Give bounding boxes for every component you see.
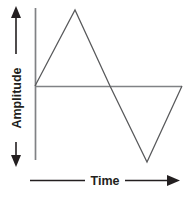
time-axis-group: Time [30,174,180,188]
amplitude-axis-group: Amplitude [10,6,24,167]
arrow-down-icon [11,155,21,167]
y-axis-label: Amplitude [10,67,24,128]
waveform-diagram: Amplitude Time [0,0,192,197]
arrow-right-icon [167,175,180,186]
arrow-up-icon [11,6,21,18]
x-axis-label: Time [91,174,120,188]
